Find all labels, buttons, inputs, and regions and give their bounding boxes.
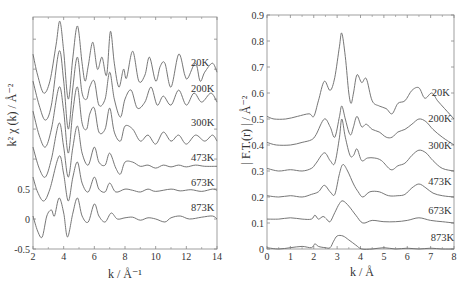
series-label-300K: 300K bbox=[428, 140, 452, 151]
x-tick-label: 10 bbox=[151, 251, 161, 262]
series-label-20K: 20K bbox=[191, 57, 210, 68]
x-tick-label: 4 bbox=[61, 251, 66, 262]
x-tick-label: 2 bbox=[311, 251, 316, 262]
exafs-figure: 2468101214-0.500.5 20K200K300K473K673K87… bbox=[0, 0, 461, 282]
y-tick-label: 0.5 bbox=[18, 184, 31, 195]
series-curve-300K bbox=[33, 87, 217, 153]
series-label-873K: 873K bbox=[191, 202, 215, 213]
y-tick-label: 0.4 bbox=[252, 140, 265, 151]
series-label-20K: 20K bbox=[432, 87, 451, 98]
y-tick-label: 0.9 bbox=[252, 10, 265, 21]
series-label-473K: 473K bbox=[191, 152, 215, 163]
y-tick-label: 0.5 bbox=[252, 114, 265, 125]
series-label-673K: 673K bbox=[428, 205, 452, 216]
series-label-873K: 873K bbox=[431, 232, 455, 243]
y-tick-label: -0.5 bbox=[14, 244, 30, 255]
x-tick-label: 3 bbox=[335, 251, 340, 262]
series-label-200K: 200K bbox=[191, 83, 215, 94]
y-tick-label: 0.8 bbox=[252, 36, 265, 47]
series-curve-200K bbox=[267, 106, 454, 145]
x-tick-label: 8 bbox=[123, 251, 128, 262]
y-tick-label: 0.6 bbox=[252, 88, 265, 99]
series-curve-473K bbox=[267, 164, 454, 197]
x-tick-label: 8 bbox=[452, 251, 457, 262]
x-tick-label: 12 bbox=[181, 251, 191, 262]
series-label-300K: 300K bbox=[191, 117, 215, 128]
x-tick-label: 1 bbox=[288, 251, 293, 262]
left-panel-chi-k: 2468101214-0.500.5 20K200K300K473K673K87… bbox=[5, 17, 222, 281]
right-y-axis-label: | F.T.(r) | / Å⁻² bbox=[239, 95, 253, 164]
y-tick-label: 0 bbox=[25, 214, 30, 225]
right-series-labels: 20K200K300K473K673K873K bbox=[428, 87, 454, 244]
y-tick-label: 0 bbox=[259, 244, 264, 255]
y-tick-label: 0.2 bbox=[252, 192, 265, 203]
y-tick-label: 0.1 bbox=[252, 218, 265, 229]
x-tick-label: 0 bbox=[265, 251, 270, 262]
right-panel-ft-r: 01234567800.10.20.30.40.50.60.70.80.9 20… bbox=[239, 10, 457, 280]
series-curve-300K bbox=[267, 119, 454, 171]
series-curve-20K bbox=[267, 33, 454, 119]
series-label-673K: 673K bbox=[191, 177, 215, 188]
x-tick-label: 5 bbox=[381, 251, 386, 262]
series-label-200K: 200K bbox=[428, 113, 452, 124]
right-plot-frame bbox=[267, 15, 454, 249]
x-tick-label: 2 bbox=[31, 251, 36, 262]
series-curve-473K bbox=[33, 123, 217, 177]
right-x-axis-label: k / Å bbox=[350, 265, 374, 279]
series-curve-673K bbox=[267, 201, 454, 223]
series-curve-873K bbox=[33, 198, 217, 238]
x-tick-label: 14 bbox=[212, 251, 222, 262]
x-tick-label: 6 bbox=[405, 251, 410, 262]
x-tick-label: 4 bbox=[358, 251, 363, 262]
right-axis-ticks: 01234567800.10.20.30.40.50.60.70.80.9 bbox=[252, 10, 457, 263]
series-label-473K: 473K bbox=[428, 176, 452, 187]
y-tick-label: 0.3 bbox=[252, 166, 265, 177]
left-series-curves bbox=[33, 21, 217, 238]
x-tick-label: 6 bbox=[92, 251, 97, 262]
left-y-axis-label: k² χ (k) / Å⁻² bbox=[5, 83, 19, 146]
y-tick-label: 0.7 bbox=[252, 62, 265, 73]
left-x-axis-label: k / Å⁻¹ bbox=[108, 267, 142, 281]
right-series-curves bbox=[267, 33, 454, 249]
x-tick-label: 7 bbox=[428, 251, 433, 262]
